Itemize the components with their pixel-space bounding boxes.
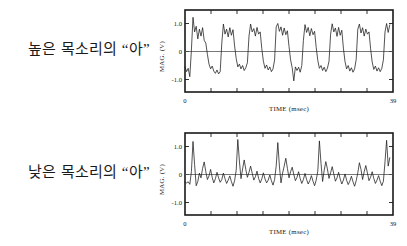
x-tick-label-high-end: 39 xyxy=(390,97,397,104)
y-axis-title-high: MAG. (V) xyxy=(158,41,166,72)
y-tick-label-high-1: 1.0 xyxy=(174,20,183,27)
panel-caption-high-pitch: 높은 목소리의 “아” xyxy=(14,40,164,58)
panel-high-pitch: 높은 목소리의 “아” MAG. (V) 1.0 0 -1.0 xyxy=(0,0,407,123)
x-axis-title-high: TIME (msec) xyxy=(269,105,309,113)
y-tick-label-high-3: -1.0 xyxy=(172,76,183,83)
x-tick-label-low-start: 0 xyxy=(183,220,187,227)
y-tick-label-low-1: 1.0 xyxy=(174,143,183,150)
x-tick-label-high-start: 0 xyxy=(183,97,187,104)
y-axis-title-low: MAG. (V) xyxy=(158,164,166,195)
waveform-trace-high xyxy=(185,17,390,81)
speech-waveform-figure: 높은 목소리의 “아” MAG. (V) 1.0 0 -1.0 xyxy=(0,0,407,246)
y-tick-label-low-3: -1.0 xyxy=(172,199,183,206)
plot-frame-high xyxy=(185,10,393,92)
y-tick-label-high-2: 0 xyxy=(179,48,183,55)
y-tick-label-low-2: 0 xyxy=(179,171,183,178)
x-axis-title-low: TIME (msec) xyxy=(269,228,309,236)
panel-low-pitch: 낮은 목소리의 “아” MAG. (V) 1.0 0 -1.0 xyxy=(0,123,407,246)
x-ticks-low xyxy=(211,133,367,215)
x-tick-label-low-end: 39 xyxy=(390,220,397,227)
plot-svg-high-pitch: MAG. (V) 1.0 0 -1.0 xyxy=(155,6,401,118)
plot-low-pitch: MAG. (V) 1.0 0 -1.0 xyxy=(155,129,401,241)
panel-caption-low-pitch: 낮은 목소리의 “아” xyxy=(14,163,164,181)
waveform-trace-low xyxy=(185,140,390,187)
plot-svg-low-pitch: MAG. (V) 1.0 0 -1.0 xyxy=(155,129,401,241)
plot-high-pitch: MAG. (V) 1.0 0 -1.0 xyxy=(155,6,401,118)
